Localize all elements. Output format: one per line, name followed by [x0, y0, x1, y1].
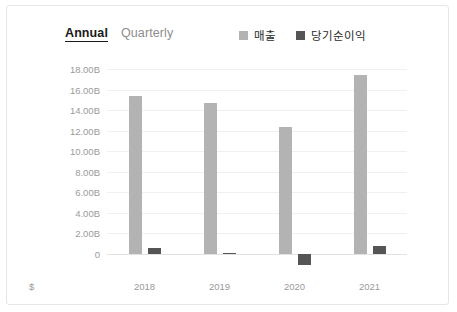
x-axis-tick-label: 2018 — [134, 281, 155, 292]
tab-quarterly[interactable]: Quarterly — [121, 26, 173, 40]
legend-item-net-income[interactable]: 당기순이익 — [296, 27, 366, 43]
chart-plot-area: 02.00B4.00B6.00B8.00B10.00B12.00B14.00B1… — [107, 69, 407, 274]
x-axis-tick-label: 2019 — [209, 281, 230, 292]
y-axis-tick-label: 10.00B — [70, 146, 100, 157]
y-axis-tick-label: 6.00B — [75, 187, 100, 198]
tab-annual[interactable]: Annual — [65, 26, 108, 42]
bar-당기순이익-2018[interactable] — [148, 248, 161, 254]
financial-chart-card: Annual Quarterly 매출 당기순이익 02.00B4.00B6.0… — [6, 5, 449, 305]
legend-item-revenue[interactable]: 매출 — [239, 27, 276, 43]
x-axis-tick-label: 2021 — [359, 281, 380, 292]
legend-label-net-income: 당기순이익 — [311, 27, 366, 43]
y-axis-tick-label: 14.00B — [70, 105, 100, 116]
legend-swatch-revenue — [239, 31, 248, 40]
bar-매출-2019[interactable] — [204, 103, 217, 254]
chart-x-axis: 2018201920202021 — [107, 281, 407, 299]
legend-label-revenue: 매출 — [254, 27, 276, 43]
bar-매출-2020[interactable] — [279, 127, 292, 253]
chart-header: Annual Quarterly 매출 당기순이익 — [7, 6, 448, 52]
y-axis-tick-label: 4.00B — [75, 207, 100, 218]
x-axis-tick-label: 2020 — [284, 281, 305, 292]
y-axis-tick-label: 12.00B — [70, 125, 100, 136]
legend-swatch-net-income — [296, 31, 305, 40]
bar-당기순이익-2019[interactable] — [223, 253, 236, 254]
zero-line — [107, 254, 407, 255]
chart-legend: 매출 당기순이익 — [239, 27, 366, 43]
currency-marker: $ — [29, 281, 34, 292]
y-axis-tick-label: 2.00B — [75, 228, 100, 239]
bar-당기순이익-2021[interactable] — [373, 246, 386, 254]
y-axis-tick-label: 8.00B — [75, 166, 100, 177]
bar-매출-2018[interactable] — [129, 96, 142, 254]
y-axis-tick-label: 18.00B — [70, 64, 100, 75]
bar-매출-2021[interactable] — [354, 75, 367, 253]
gridline — [107, 69, 407, 70]
bar-당기순이익-2020[interactable] — [298, 254, 311, 265]
y-axis-tick-label: 0 — [95, 248, 100, 259]
period-tabs: Annual Quarterly — [65, 26, 173, 42]
y-axis-tick-label: 16.00B — [70, 84, 100, 95]
